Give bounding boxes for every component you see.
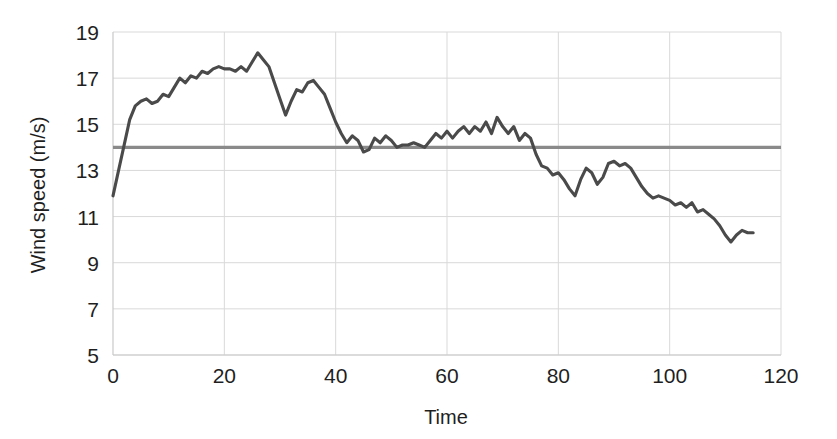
y-tick-label: 9 [87,252,99,275]
x-tick-label: 80 [547,364,570,387]
x-tick-label: 40 [324,364,347,387]
y-tick-label: 17 [76,67,99,90]
x-tick-label: 120 [763,364,798,387]
x-tick-label: 100 [652,364,687,387]
chart-canvas: 5791113151719 020406080100120 Time Wind … [0,0,837,439]
x-tick-label: 0 [107,364,119,387]
y-axis-title: Wind speed (m/s) [27,117,49,274]
y-tick-label: 19 [76,21,99,44]
y-tick-label: 11 [77,206,99,229]
x-tick-label: 20 [213,364,236,387]
y-tick-label: 13 [76,159,99,182]
x-axis-title: Time [424,406,468,428]
y-tick-label: 5 [87,344,99,367]
wind-speed-chart: 5791113151719 020406080100120 Time Wind … [0,0,837,439]
chart-background [0,0,837,439]
y-tick-label: 7 [87,298,99,321]
x-tick-label: 60 [435,364,458,387]
y-tick-label: 15 [76,113,99,136]
